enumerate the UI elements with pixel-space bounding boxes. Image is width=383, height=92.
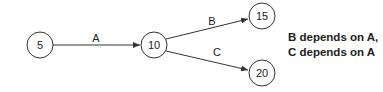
node-20: 20 (249, 60, 275, 86)
node-10-label: 10 (148, 39, 160, 51)
edge-label-a: A (92, 32, 100, 44)
node-15: 15 (249, 3, 275, 29)
edge-label-c: C (213, 46, 221, 58)
edge-c: C (166, 46, 248, 70)
node-5-label: 5 (37, 39, 43, 51)
node-15-label: 15 (256, 10, 268, 22)
node-5: 5 (27, 32, 53, 58)
dependency-note: B depends on A, C depends on A (288, 30, 378, 60)
note-line-2: C depends on A (288, 45, 378, 60)
edge-b: B (166, 15, 248, 39)
edge-a: A (53, 32, 140, 45)
edge-label-b: B (208, 15, 215, 27)
note-line-1: B depends on A, (288, 30, 378, 45)
node-20-label: 20 (256, 67, 268, 79)
node-10: 10 (141, 32, 167, 58)
